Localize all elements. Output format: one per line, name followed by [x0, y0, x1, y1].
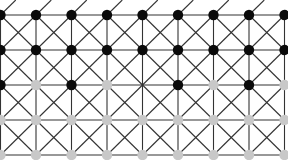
gray-piece[interactable] [66, 150, 76, 160]
black-piece[interactable] [31, 10, 41, 20]
gray-piece[interactable] [137, 150, 147, 160]
black-piece[interactable] [102, 10, 112, 20]
game-board [0, 0, 288, 160]
gray-piece[interactable] [208, 80, 218, 90]
black-piece[interactable] [208, 45, 218, 55]
board-lines [1, 0, 285, 155]
gray-piece[interactable] [208, 115, 218, 125]
gray-piece[interactable] [173, 115, 183, 125]
black-piece[interactable] [244, 10, 254, 20]
black-piece[interactable] [173, 45, 183, 55]
black-piece[interactable] [137, 10, 147, 20]
black-piece[interactable] [66, 80, 76, 90]
black-piece[interactable] [66, 45, 76, 55]
gray-piece[interactable] [208, 150, 218, 160]
gray-piece[interactable] [244, 150, 254, 160]
gray-piece[interactable] [66, 115, 76, 125]
black-piece[interactable] [137, 45, 147, 55]
gray-piece[interactable] [137, 115, 147, 125]
gray-piece[interactable] [102, 150, 112, 160]
black-piece[interactable] [208, 10, 218, 20]
gray-piece[interactable] [173, 150, 183, 160]
gray-piece[interactable] [31, 150, 41, 160]
black-piece[interactable] [244, 80, 254, 90]
black-piece[interactable] [102, 45, 112, 55]
gray-piece[interactable] [31, 115, 41, 125]
black-piece[interactable] [173, 80, 183, 90]
gray-piece[interactable] [102, 115, 112, 125]
black-piece[interactable] [244, 45, 254, 55]
black-piece[interactable] [31, 45, 41, 55]
gray-piece[interactable] [244, 115, 254, 125]
black-piece[interactable] [66, 10, 76, 20]
gray-piece[interactable] [31, 80, 41, 90]
gray-piece[interactable] [102, 80, 112, 90]
black-piece[interactable] [173, 10, 183, 20]
